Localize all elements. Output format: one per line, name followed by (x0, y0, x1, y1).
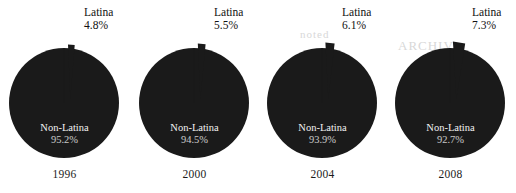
figure-panel: ARCHIV noted Latina 4.8% Non-Latina 95.2… (0, 0, 516, 193)
latina-label-text: Latina (214, 6, 243, 18)
nonlatina-label-text: Non-Latina (170, 122, 218, 133)
nonlatina-value: 92.7% (386, 134, 515, 146)
latina-value: 5.5% (214, 19, 243, 32)
nonlatina-label-text: Non-Latina (298, 122, 346, 133)
nonlatina-label-text: Non-Latina (426, 122, 474, 133)
latina-value: 4.8% (84, 19, 113, 32)
latina-callout: Latina 5.5% (214, 6, 243, 32)
pie-chart-2000: Latina 5.5% Non-Latina 94.5% 2000 (130, 0, 259, 193)
year-label: 2004 (258, 168, 387, 180)
latina-label-text: Latina (472, 6, 501, 18)
latina-value: 7.3% (472, 19, 501, 32)
pie-chart-2004: Latina 6.1% Non-Latina 93.9% 2004 (258, 0, 387, 193)
nonlatina-value: 94.5% (130, 134, 259, 146)
pie-chart-2008: Latina 7.3% Non-Latina 92.7% 2008 (386, 0, 515, 193)
nonlatina-value: 95.2% (0, 134, 129, 146)
latina-callout: Latina 4.8% (84, 6, 113, 32)
latina-callout: Latina 7.3% (472, 6, 501, 32)
latina-label-text: Latina (84, 6, 113, 18)
nonlatina-value: 93.9% (258, 134, 387, 146)
latina-callout: Latina 6.1% (342, 6, 371, 32)
latina-label-text: Latina (342, 6, 371, 18)
nonlatina-label-text: Non-Latina (40, 122, 88, 133)
nonlatina-callout: Non-Latina 94.5% (130, 122, 259, 146)
nonlatina-callout: Non-Latina 93.9% (258, 122, 387, 146)
latina-value: 6.1% (342, 19, 371, 32)
year-label: 2008 (386, 168, 515, 180)
pie-chart-1996: Latina 4.8% Non-Latina 95.2% 1996 (0, 0, 129, 193)
year-label: 1996 (0, 168, 129, 180)
year-label: 2000 (130, 168, 259, 180)
nonlatina-callout: Non-Latina 92.7% (386, 122, 515, 146)
nonlatina-callout: Non-Latina 95.2% (0, 122, 129, 146)
